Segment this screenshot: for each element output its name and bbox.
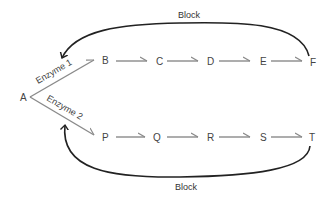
node-e: E — [260, 56, 267, 67]
feedback-inhibition-diagram: A Enzyme 1 Enzyme 2 B C D E F P Q R S T … — [0, 0, 333, 200]
node-c: C — [156, 56, 163, 67]
enzyme-1-label: Enzyme 1 — [34, 57, 74, 86]
node-f: F — [310, 57, 316, 68]
node-r: R — [207, 132, 214, 143]
node-s: S — [260, 132, 267, 143]
node-b: B — [102, 55, 109, 66]
node-t: T — [309, 132, 315, 143]
feedback-arrow-top — [62, 23, 309, 58]
node-a: A — [20, 92, 27, 103]
node-p: P — [102, 132, 109, 143]
block-label-bottom: Block — [175, 182, 198, 192]
block-label-top: Block — [178, 10, 201, 20]
node-d: D — [207, 56, 214, 67]
node-q: Q — [153, 132, 161, 143]
